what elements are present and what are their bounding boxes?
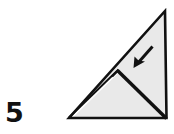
origami-diagram (0, 0, 174, 134)
figure-root: 5 (0, 0, 174, 134)
